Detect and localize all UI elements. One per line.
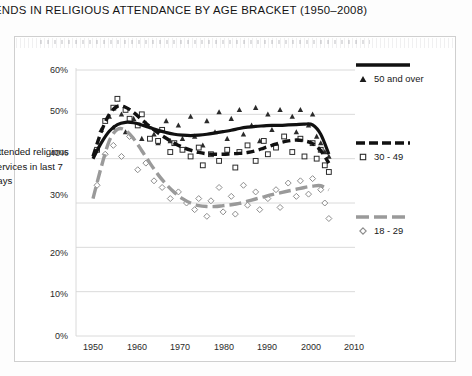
data-point [298, 107, 303, 112]
data-point [282, 134, 287, 139]
x-tick-1950: 1950 [76, 342, 110, 352]
data-point [326, 216, 332, 222]
chart-plot [0, 0, 472, 376]
data-point [176, 123, 181, 128]
data-point [217, 158, 222, 163]
data-point [225, 147, 230, 152]
trend-line-18-29 [93, 128, 329, 206]
data-point [253, 189, 259, 195]
data-point [326, 170, 331, 175]
data-point [216, 109, 221, 114]
legend-line-solid [355, 60, 411, 70]
filled-triangle-marker [358, 74, 368, 84]
y-tick-40: 40% [42, 148, 68, 158]
open-diamond-marker [358, 226, 368, 236]
data-point [225, 136, 230, 141]
data-point [216, 184, 222, 190]
data-point [127, 116, 132, 121]
data-point [220, 209, 226, 215]
data-point [148, 136, 153, 141]
data-point [204, 118, 209, 123]
y-tick-20: 20% [42, 248, 68, 258]
data-point [241, 131, 246, 136]
data-point [314, 156, 319, 161]
data-point [233, 165, 238, 170]
legend-label-18-29: 18 - 29 [374, 224, 403, 237]
y-tick-10: 10% [42, 289, 68, 299]
data-point [293, 193, 299, 199]
data-point [159, 184, 165, 190]
data-point [310, 176, 316, 182]
data-point [135, 167, 141, 173]
legend-label-50-and-over: 50 and over [374, 72, 424, 85]
data-point [229, 116, 234, 121]
data-point [277, 107, 282, 112]
x-tick-1970: 1970 [163, 342, 197, 352]
data-point [204, 213, 210, 219]
data-point [294, 129, 299, 134]
x-tick-1990: 1990 [250, 342, 284, 352]
y-tick-0: 0% [42, 331, 68, 341]
chart-page: ENDS IN RELIGIOUS ATTENDANCE BY AGE BRAC… [0, 0, 472, 376]
data-point [322, 163, 327, 168]
data-point [115, 96, 120, 101]
data-point [253, 105, 258, 110]
data-point [156, 139, 161, 144]
data-point [240, 182, 246, 188]
y-tick-50: 50% [42, 106, 68, 116]
legend-line-gray-dashed [355, 212, 411, 222]
data-point [139, 136, 144, 141]
x-tick-2000: 2000 [294, 342, 328, 352]
data-point [168, 150, 173, 155]
data-point [257, 207, 263, 213]
data-point [196, 145, 201, 150]
data-point [273, 187, 279, 193]
data-point [261, 139, 266, 144]
data-point [228, 193, 234, 199]
y-tick-60: 60% [42, 65, 68, 75]
legend-line-dashed [355, 138, 411, 148]
data-point [253, 158, 258, 163]
data-point [232, 211, 238, 217]
data-point [285, 180, 291, 186]
legend-label-30-49: 30 - 49 [374, 150, 403, 163]
data-point [188, 154, 193, 159]
data-point [164, 118, 169, 123]
data-point [196, 196, 202, 202]
data-point [192, 207, 198, 213]
x-tick-1980: 1980 [207, 342, 241, 352]
data-point [180, 147, 185, 152]
data-point [110, 142, 116, 148]
data-point [269, 127, 274, 132]
data-point [167, 196, 173, 202]
data-point [277, 204, 283, 210]
data-point [314, 134, 319, 139]
data-point [306, 191, 312, 197]
x-tick-2010: 2010 [337, 342, 371, 352]
y-tick-30: 30% [42, 190, 68, 200]
data-point [245, 143, 250, 148]
data-point [200, 163, 205, 168]
data-point [322, 200, 328, 206]
data-point [290, 150, 295, 155]
data-point [265, 152, 270, 157]
open-square-marker [358, 152, 368, 162]
data-point [237, 107, 242, 112]
data-point [151, 178, 157, 184]
x-tick-1960: 1960 [120, 342, 154, 352]
data-point [302, 154, 307, 159]
data-point [297, 178, 303, 184]
